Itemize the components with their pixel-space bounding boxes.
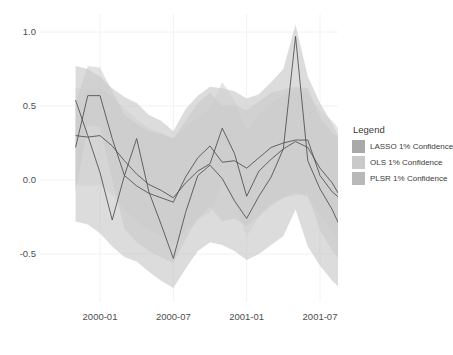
y-tick-label: -0.5 — [2, 249, 36, 259]
legend-item[interactable]: LASSO 1% Confidence — [352, 140, 448, 153]
legend: Legend LASSO 1% ConfidenceOLS 1% Confide… — [352, 124, 448, 188]
x-axis: 2000-012000-072001-012001-07 — [0, 312, 450, 328]
x-tick-label: 2000-07 — [143, 312, 203, 322]
x-tick-label: 2000-01 — [70, 312, 130, 322]
legend-item-label: LASSO 1% Confidence — [370, 142, 453, 152]
y-tick-label: 0.5 — [2, 101, 36, 111]
legend-title: Legend — [353, 124, 448, 135]
plot-svg — [40, 14, 338, 302]
legend-item-label: OLS 1% Confidence — [370, 158, 443, 168]
legend-item[interactable]: OLS 1% Confidence — [352, 156, 448, 169]
legend-swatch-icon — [352, 140, 365, 153]
y-tick-label: 1.0 — [2, 27, 36, 37]
legend-items: LASSO 1% ConfidenceOLS 1% ConfidencePLSR… — [352, 140, 448, 185]
legend-item[interactable]: PLSR 1% Confidence — [352, 172, 448, 185]
x-tick-label: 2001-01 — [217, 312, 277, 322]
legend-swatch-icon — [352, 156, 365, 169]
legend-item-label: PLSR 1% Confidence — [370, 174, 447, 184]
legend-swatch-icon — [352, 172, 365, 185]
plot-panel — [40, 14, 338, 302]
x-tick-label: 2001-07 — [290, 312, 350, 322]
y-axis: 1.00.50.0-0.5 — [0, 0, 36, 355]
y-tick-label: 0.0 — [2, 175, 36, 185]
